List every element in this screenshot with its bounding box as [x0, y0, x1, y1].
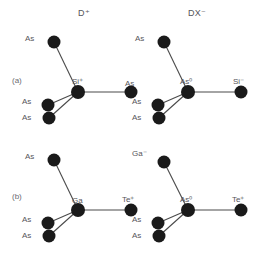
atom-lower-left-lower — [43, 112, 56, 125]
panel-a-left: As As As As Si⁺ — [22, 22, 142, 132]
atom-label-center: As⁰ — [180, 196, 192, 204]
atom-label-lower-left-lower: As — [22, 232, 31, 240]
atom-label-lower-left-upper: As — [132, 216, 141, 224]
atom-label-right: Te⁺ — [232, 196, 244, 204]
atom-lower-left-upper — [42, 99, 55, 112]
atom-label-top-left: As — [25, 35, 34, 43]
atom-lower-left-upper — [152, 217, 165, 230]
atom-right — [235, 86, 248, 99]
atom-label-lower-left-lower: As — [132, 232, 141, 240]
atom-label-center: Ga — [72, 197, 83, 205]
atom-top-left — [48, 154, 61, 167]
atom-right — [235, 204, 248, 217]
atom-label-lower-left-upper: As — [132, 98, 141, 106]
atom-lower-left-lower — [153, 230, 166, 243]
atom-top-left — [158, 36, 171, 49]
atom-label-top-left: As — [25, 153, 34, 161]
atom-top-left — [158, 156, 171, 169]
row-label-a: (a) — [12, 76, 22, 85]
panel-b-right: Ga⁻ Te⁺ As As As⁰ — [132, 140, 252, 250]
atom-lower-left-lower — [153, 112, 166, 125]
column-header-dx-minus: DX⁻ — [188, 8, 206, 18]
column-header-d-plus: D⁺ — [78, 8, 90, 18]
atom-label-center: As⁰ — [180, 78, 192, 86]
atom-top-left — [48, 36, 61, 49]
atom-center — [71, 85, 85, 99]
atom-label-top-left: As — [135, 35, 144, 43]
atom-label-lower-left-upper: As — [22, 216, 31, 224]
atom-label-lower-left-lower: As — [132, 114, 141, 122]
atom-label-center: Si⁺ — [72, 78, 83, 86]
panel-a-right: As Si⁻ As As As⁰ — [132, 22, 252, 132]
atom-label-lower-left-upper: As — [22, 98, 31, 106]
atom-label-lower-left-lower: As — [22, 114, 31, 122]
atom-center — [71, 203, 85, 217]
atom-label-right: Si⁻ — [233, 78, 244, 86]
atom-center — [181, 203, 195, 217]
row-label-b: (b) — [12, 192, 22, 201]
panel-b-left: As Te⁺ As As Ga — [22, 140, 142, 250]
atom-lower-left-upper — [152, 99, 165, 112]
dx-center-figure: D⁺ DX⁻ (a) (b) As As As As Si⁺ — [0, 0, 262, 264]
atom-lower-left-lower — [43, 230, 56, 243]
atom-center — [181, 85, 195, 99]
atom-lower-left-upper — [42, 217, 55, 230]
atom-label-top-left: Ga⁻ — [132, 150, 147, 158]
